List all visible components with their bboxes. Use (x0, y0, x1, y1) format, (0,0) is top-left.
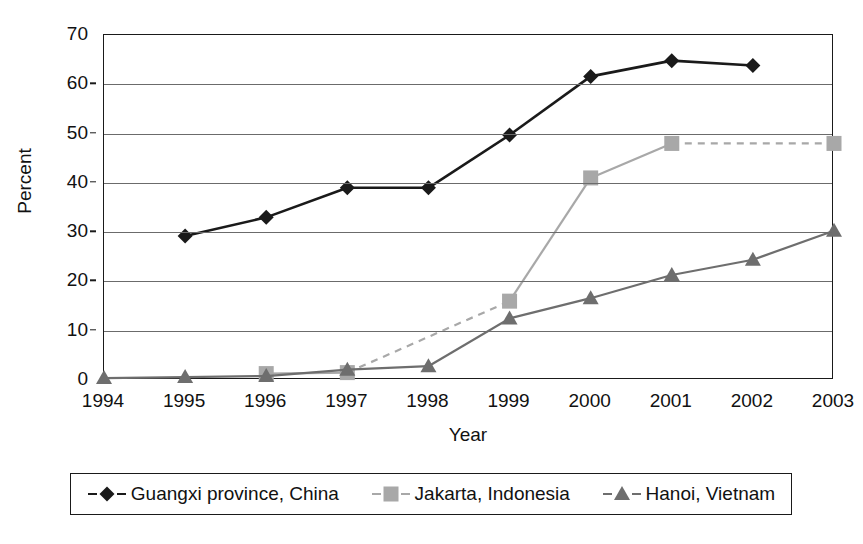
data-point-marker (502, 294, 517, 309)
x-tick-label-1999: 1999 (487, 390, 529, 412)
x-tick-label-2003: 2003 (812, 390, 854, 412)
data-point-marker (177, 369, 193, 383)
legend-marker-triangle-icon (602, 485, 642, 503)
legend-item-jakarta-indonesia[interactable]: Jakarta, Indonesia (371, 483, 570, 505)
series-line-segment (266, 370, 347, 376)
y-tick-label-30: 30 (67, 220, 88, 242)
y-tick-label-10: 10 (67, 319, 88, 341)
chart-figure: Percent 010203040506070 1994199519961997… (0, 0, 863, 544)
y-tick-label-50: 50 (67, 122, 88, 144)
data-point-marker (664, 136, 679, 151)
y-tick-mark-60 (90, 83, 96, 84)
series-hanoi-vietnam (96, 223, 842, 384)
series-line-segment (266, 188, 347, 218)
data-point-marker (502, 128, 517, 143)
gridline-40 (104, 183, 832, 184)
x-tick-label-1996: 1996 (244, 390, 286, 412)
data-point-marker (502, 310, 518, 324)
series-line-segment (347, 301, 509, 372)
y-tick-label-40: 40 (67, 171, 88, 193)
y-axis-tick-labels: 010203040506070 (40, 34, 96, 379)
series-layer (104, 35, 834, 380)
legend-item-guangxi-province-china[interactable]: Guangxi province, China (87, 483, 339, 505)
chart-legend: Guangxi province, ChinaJakarta, Indonesi… (70, 473, 792, 515)
y-tick-mark-40 (90, 181, 96, 182)
series-line-segment (428, 318, 509, 366)
y-axis-title: Percent (14, 111, 36, 251)
data-point-marker (259, 366, 274, 381)
x-axis-tick-labels: 1994199519961997199819992000200120022003 (103, 390, 833, 416)
gridline-30 (104, 232, 832, 233)
series-line-segment (510, 178, 591, 301)
series-line-segment (591, 275, 672, 298)
y-tick-mark-50 (90, 132, 96, 133)
data-point-marker (178, 229, 193, 244)
y-tick-label-0: 0 (77, 368, 88, 390)
data-point-marker (339, 362, 355, 376)
gridline-10 (104, 331, 832, 332)
series-jakarta-indonesia (259, 136, 842, 381)
data-point-marker (259, 210, 274, 225)
legend-item-hanoi-vietnam[interactable]: Hanoi, Vietnam (602, 483, 776, 505)
x-tick-label-2001: 2001 (650, 390, 692, 412)
y-tick-mark-10 (90, 329, 96, 330)
legend-marker-square-icon (371, 485, 411, 503)
y-tick-mark-20 (90, 280, 96, 281)
series-line-segment (672, 61, 753, 66)
series-line-segment (347, 366, 428, 369)
series-line-segment (672, 260, 753, 275)
series-line-segment (753, 231, 834, 260)
gridline-50 (104, 134, 832, 135)
data-point-marker (745, 58, 760, 73)
series-line-segment (266, 373, 347, 374)
x-tick-label-1995: 1995 (163, 390, 205, 412)
plot-area (103, 34, 833, 379)
series-line-segment (428, 135, 509, 188)
series-line-segment (185, 376, 266, 377)
series-guangxi-province-china (178, 53, 761, 243)
gridline-60 (104, 84, 832, 85)
data-point-marker (826, 223, 842, 237)
data-point-marker (96, 370, 112, 384)
data-point-marker (583, 290, 599, 304)
data-point-marker (664, 53, 679, 68)
legend-label: Jakarta, Indonesia (413, 483, 570, 505)
x-tick-label-1998: 1998 (406, 390, 448, 412)
x-axis-title: Year (103, 424, 833, 446)
y-tick-label-20: 20 (67, 269, 88, 291)
x-tick-label-2002: 2002 (731, 390, 773, 412)
data-point-marker (340, 365, 355, 380)
data-point-marker (420, 358, 436, 372)
data-point-marker (745, 252, 761, 266)
legend-marker-diamond-icon (87, 485, 127, 503)
x-tick-label-1997: 1997 (325, 390, 367, 412)
series-line-segment (591, 143, 672, 178)
x-tick-label-1994: 1994 (82, 390, 124, 412)
y-tick-label-70: 70 (67, 23, 88, 45)
data-point-marker (583, 69, 598, 84)
gridline-20 (104, 281, 832, 282)
data-point-marker (827, 136, 842, 151)
data-point-marker (664, 267, 680, 281)
data-point-marker (258, 368, 274, 382)
legend-label: Hanoi, Vietnam (644, 483, 776, 505)
series-line-segment (104, 377, 185, 378)
series-line-segment (185, 217, 266, 236)
series-line-segment (591, 61, 672, 77)
legend-label: Guangxi province, China (129, 483, 339, 505)
series-line-segment (510, 298, 591, 318)
y-tick-mark-30 (90, 230, 96, 231)
x-tick-label-2000: 2000 (569, 390, 611, 412)
y-tick-label-60: 60 (67, 72, 88, 94)
